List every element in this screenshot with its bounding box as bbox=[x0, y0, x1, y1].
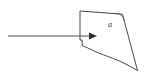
diagram-canvas: a bbox=[0, 0, 146, 74]
diagram-svg: a bbox=[0, 0, 146, 74]
angle-label: a bbox=[108, 20, 112, 29]
arrowhead-icon bbox=[89, 32, 97, 39]
